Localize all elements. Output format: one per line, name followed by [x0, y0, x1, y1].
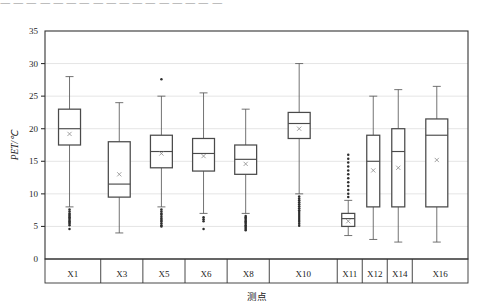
category-label-X14: X14 — [392, 269, 408, 279]
ytick-label-25: 25 — [29, 91, 39, 101]
box-body-X3 — [108, 142, 130, 197]
category-label-X10: X10 — [296, 269, 312, 279]
ytick-label-30: 30 — [29, 59, 39, 69]
outlier-X6-2 — [202, 220, 205, 223]
box-X11[interactable] — [342, 154, 355, 236]
box-X14[interactable] — [392, 90, 405, 242]
box-X10[interactable] — [288, 64, 310, 227]
outlier-X11-4 — [347, 169, 350, 172]
category-label-X11: X11 — [342, 269, 357, 279]
outlier-X11-5 — [347, 173, 350, 176]
box-X3[interactable] — [108, 103, 130, 233]
boxplot-figure: 一 一 一 一 一 一 一 一 一 一 一 一 一 一 一 一 一 051015… — [0, 0, 485, 306]
category-label-X12: X12 — [367, 269, 383, 279]
ytick-label-15: 15 — [29, 156, 39, 166]
box-X6[interactable] — [193, 93, 215, 230]
outlier-X11-2 — [347, 161, 350, 164]
outlier-X6-3 — [202, 228, 205, 231]
box-X1[interactable] — [59, 77, 81, 231]
y-axis-title: PET/℃ — [10, 129, 20, 162]
box-body-X1 — [59, 109, 81, 145]
box-body-X16 — [426, 119, 448, 207]
box-X16[interactable] — [426, 86, 448, 242]
category-label-X5: X5 — [158, 269, 169, 279]
box-X5[interactable] — [150, 78, 172, 228]
outlier-X11-11 — [347, 196, 350, 199]
box-body-X10 — [288, 112, 310, 138]
outlier-X11-6 — [347, 177, 350, 180]
category-label-X3: X3 — [116, 269, 127, 279]
box-body-X12 — [367, 135, 380, 207]
outlier-X5-0 — [160, 78, 163, 81]
outlier-X8-11 — [244, 229, 247, 232]
outlier-X11-7 — [347, 181, 350, 184]
outlier-X5-11 — [160, 225, 163, 228]
outlier-X11-9 — [347, 189, 350, 192]
category-label-X1: X1 — [67, 269, 78, 279]
ytick-label-20: 20 — [29, 124, 39, 134]
box-X8[interactable] — [235, 109, 257, 231]
ytick-label-35: 35 — [29, 26, 39, 36]
category-label-X8: X8 — [243, 269, 254, 279]
outlier-X1-12 — [68, 228, 71, 231]
outlier-X11-0 — [347, 154, 350, 157]
outlier-X1-11 — [68, 224, 71, 227]
ytick-label-5: 5 — [34, 221, 39, 231]
outlier-X11-10 — [347, 193, 350, 196]
box-body-X6 — [193, 138, 215, 171]
category-label-X6: X6 — [201, 269, 212, 279]
box-body-X11 — [342, 213, 355, 226]
outlier-X11-8 — [347, 185, 350, 188]
category-label-X16: X16 — [432, 269, 448, 279]
ytick-label-0: 0 — [34, 254, 39, 264]
box-X12[interactable] — [367, 96, 380, 239]
cut-off-header-text: 一 一 一 一 一 一 一 一 一 一 一 一 一 一 一 一 一 — [0, 0, 485, 7]
outlier-X11-1 — [347, 157, 350, 160]
chart-canvas: 05101520253035PET/℃X1X3X5X6X8X10X11X12X1… — [0, 0, 485, 306]
ytick-label-10: 10 — [29, 189, 39, 199]
x-axis-title: 测点 — [247, 291, 267, 302]
outlier-X11-3 — [347, 165, 350, 168]
outlier-X10-15 — [298, 225, 301, 228]
